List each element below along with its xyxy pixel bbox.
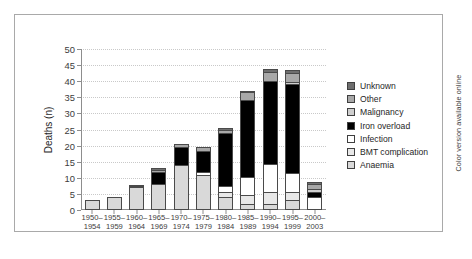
legend-item[interactable]: Malignancy <box>347 107 452 117</box>
x-axis-labels: 1950–19541955–19591960–19641965–19691970… <box>81 214 326 231</box>
legend-label: BMT complication <box>360 147 428 157</box>
legend-label: Iron overload <box>360 121 410 131</box>
x-label-line-2: 1989 <box>237 223 259 232</box>
bar-segment-iron-overload[interactable] <box>174 147 189 166</box>
y-axis-title-text: Deaths (n) <box>43 106 54 153</box>
legend-swatch <box>347 108 355 116</box>
bar-segment-iron-overload[interactable] <box>196 151 211 174</box>
bar-segment-infection[interactable] <box>307 197 322 210</box>
bar-segment-anaemia[interactable] <box>151 184 166 210</box>
legend-swatch <box>347 161 355 169</box>
legend-label: Malignancy <box>360 107 403 117</box>
bar-segment-iron-overload[interactable] <box>285 84 300 174</box>
legend-item[interactable]: Iron overload <box>347 121 452 131</box>
bar-segment-anaemia[interactable] <box>218 197 233 210</box>
bar-slot <box>192 49 214 210</box>
stacked-bar[interactable] <box>307 182 322 210</box>
stacked-bar[interactable] <box>107 197 122 210</box>
bar-segment-iron-overload[interactable] <box>240 100 255 177</box>
x-axis-tick-label: 1985–1989 <box>237 214 259 231</box>
bar-segment-iron-overload[interactable] <box>218 133 233 188</box>
stacked-bar[interactable] <box>151 168 166 210</box>
x-label-line-2: 1979 <box>192 223 214 232</box>
legend-swatch <box>347 135 355 143</box>
x-label-line-2: 1974 <box>170 223 192 232</box>
figure: Deaths (n) 05101520253035404550 1950–195… <box>0 0 472 259</box>
bar-slot <box>215 49 237 210</box>
bar-slot <box>81 49 103 210</box>
bar-slot <box>237 49 259 210</box>
legend-label: Unknown <box>360 81 396 91</box>
stacked-bar[interactable] <box>240 91 255 210</box>
legend-swatch <box>347 82 355 90</box>
legend-item[interactable]: Unknown <box>347 81 452 91</box>
legend-item[interactable]: Infection <box>347 134 452 144</box>
x-axis-tick-label: 1975–1979 <box>192 214 214 231</box>
legend-swatch <box>347 95 355 103</box>
bar-group <box>81 49 326 210</box>
bar-slot <box>304 49 326 210</box>
x-label-line-2: 1999 <box>281 223 303 232</box>
x-label-line-2: 1994 <box>259 223 281 232</box>
legend-item[interactable]: BMT complication <box>347 147 452 157</box>
legend-swatch <box>347 122 355 130</box>
bar-slot <box>170 49 192 210</box>
bar-segment-anaemia[interactable] <box>196 175 211 210</box>
chart-legend: UnknownOtherMalignancyIron overloadInfec… <box>347 81 452 173</box>
stacked-bar[interactable] <box>218 128 233 210</box>
bar-segment-infection[interactable] <box>263 164 278 193</box>
bar-segment-iron-overload[interactable] <box>263 81 278 165</box>
x-label-line-2: 1954 <box>81 223 103 232</box>
legend-label: Infection <box>360 134 393 144</box>
bar-segment-anaemia[interactable] <box>85 200 100 210</box>
legend-swatch <box>347 148 355 156</box>
x-label-line-2: 1964 <box>126 223 148 232</box>
stacked-bar[interactable] <box>129 185 144 210</box>
bar-segment-anaemia[interactable] <box>129 187 144 210</box>
x-label-line-2: 1969 <box>148 223 170 232</box>
stacked-bar[interactable] <box>263 69 278 210</box>
stacked-bar[interactable] <box>285 70 300 210</box>
figure-frame: Deaths (n) 05101520253035404550 1950–195… <box>14 14 443 232</box>
bar-slot <box>281 49 303 210</box>
online-color-note-text: Color version available online <box>454 75 463 172</box>
y-axis-title: Deaths (n) <box>41 49 55 210</box>
bar-segment-anaemia[interactable] <box>285 200 300 210</box>
stacked-bar[interactable] <box>196 147 211 210</box>
legend-label: Other <box>360 94 382 104</box>
bar-slot <box>103 49 125 210</box>
x-axis-tick-label: 1950–1954 <box>81 214 103 231</box>
x-axis-tick-label: 1960–1964 <box>126 214 148 231</box>
bar-slot <box>148 49 170 210</box>
x-axis-tick-label: 1970–1974 <box>170 214 192 231</box>
bar-segment-anaemia[interactable] <box>107 197 122 210</box>
stacked-bar[interactable] <box>174 144 189 210</box>
bar-slot <box>259 49 281 210</box>
bar-segment-infection[interactable] <box>240 177 255 196</box>
x-label-line-2: 2003 <box>304 223 326 232</box>
x-label-line-2: 1959 <box>103 223 125 232</box>
bar-segment-infection[interactable] <box>285 173 300 192</box>
plot-area: 05101520253035404550 <box>81 49 326 210</box>
legend-item[interactable]: Other <box>347 94 452 104</box>
x-label-line-2: 1984 <box>215 223 237 232</box>
x-axis-tick-label: 2000–2003 <box>304 214 326 231</box>
bar-segment-anaemia[interactable] <box>174 165 189 210</box>
x-axis-tick-label: 1990–1994 <box>259 214 281 231</box>
x-axis-tick-label: 1995–1999 <box>281 214 303 231</box>
x-axis-tick-label: 1980–1984 <box>215 214 237 231</box>
legend-item[interactable]: Anaemia <box>347 160 452 170</box>
x-axis-tick-label: 1955–1959 <box>103 214 125 231</box>
y-axis-tick-mark <box>77 210 81 211</box>
online-color-note: Color version available online <box>447 14 469 232</box>
bar-slot <box>126 49 148 210</box>
stacked-bar[interactable] <box>85 200 100 210</box>
legend-label: Anaemia <box>360 160 394 170</box>
x-axis-tick-label: 1965–1969 <box>148 214 170 231</box>
